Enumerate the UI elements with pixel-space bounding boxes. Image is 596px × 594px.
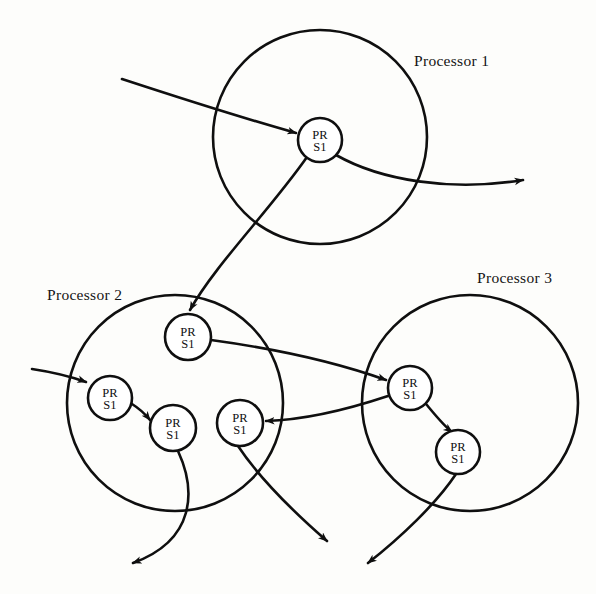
outgoing-message-bottom-right (368, 474, 456, 563)
outgoing-message-bottom-left (133, 451, 188, 563)
processor-network-diagram: PRS1PRS1PRS1PRS1PRS1PRS1PRS1 Processor 1… (0, 0, 596, 594)
process-node[interactable]: PRS1 (388, 366, 432, 410)
outgoing-message-bottom-center (238, 446, 327, 541)
outgoing-message-from-processor-1 (336, 155, 523, 185)
message-processor-2-to-processor-3 (211, 340, 386, 380)
message-p2-node2-to-node3 (132, 404, 150, 420)
process-node[interactable]: PRS1 (436, 430, 480, 474)
incoming-message-to-processor-1 (122, 79, 296, 133)
message-processor-1-to-processor-2 (190, 157, 307, 310)
process-node-label-bottom: S1 (166, 428, 180, 442)
diagram-canvas: PRS1PRS1PRS1PRS1PRS1PRS1PRS1 Processor 1… (0, 0, 596, 594)
process-node-label-bottom: S1 (403, 388, 417, 402)
process-node-label-bottom: S1 (103, 398, 117, 412)
process-node-label-bottom: S1 (313, 140, 327, 154)
processor-label-3: Processor 3 (477, 269, 552, 286)
process-node[interactable]: PRS1 (150, 405, 196, 451)
processor-label-2: Processor 2 (47, 286, 122, 303)
processor-labels-layer: Processor 1Processor 2Processor 3 (47, 52, 552, 303)
process-node[interactable]: PRS1 (165, 314, 211, 360)
incoming-message-to-processor-2 (32, 369, 86, 382)
process-node-label-bottom: S1 (451, 452, 465, 466)
message-p3-node1-to-node2 (426, 404, 452, 432)
process-node[interactable]: PRS1 (88, 376, 132, 420)
process-node-label-bottom: S1 (181, 337, 195, 351)
process-node[interactable]: PRS1 (217, 400, 263, 446)
process-node[interactable]: PRS1 (298, 118, 342, 162)
message-processor-3-to-processor-2 (266, 396, 388, 421)
processor-label-1: Processor 1 (414, 52, 489, 69)
process-node-label-bottom: S1 (233, 423, 247, 437)
